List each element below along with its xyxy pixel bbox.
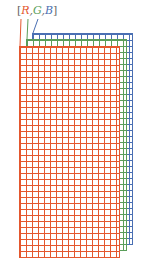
- leader-lines: [0, 0, 142, 60]
- grid-r: [19, 46, 120, 258]
- leader-b: [33, 19, 38, 33]
- leader-r: [20, 19, 21, 46]
- leader-g: [27, 19, 28, 39]
